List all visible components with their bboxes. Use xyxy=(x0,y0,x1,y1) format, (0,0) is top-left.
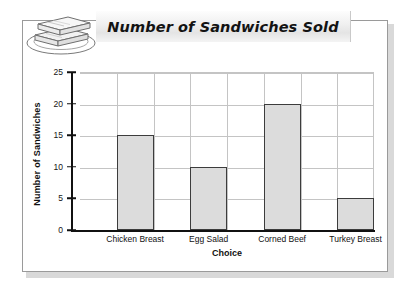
vertical-gridline xyxy=(154,73,155,230)
chart-title-banner: Number of Sandwiches Sold xyxy=(96,11,351,42)
y-tick-label: 25 xyxy=(54,68,63,77)
sandwich-on-plate-icon xyxy=(18,3,104,59)
horizontal-gridline xyxy=(80,105,373,106)
vertical-gridline xyxy=(227,73,228,230)
worksheet-page: Number of Sandwiches Sold Number of Sand… xyxy=(0,0,408,296)
x-category-label: Egg Salad xyxy=(189,234,228,244)
y-axis-title: Number of Sandwiches xyxy=(28,78,46,230)
bar xyxy=(337,198,374,230)
y-tick-label: 5 xyxy=(58,194,63,203)
bar-chart: Number of Sandwiches 0510152025 Chicken … xyxy=(24,66,382,256)
chart-title: Number of Sandwiches Sold xyxy=(107,19,338,35)
y-tickmark xyxy=(67,198,76,200)
y-axis-tick-labels: 0510152025 xyxy=(46,72,68,236)
bar xyxy=(264,104,301,230)
y-axis-title-text: Number of Sandwiches xyxy=(32,102,42,206)
y-axis-line xyxy=(71,72,73,232)
y-tickmark xyxy=(67,71,76,73)
y-tickmark xyxy=(67,134,76,136)
y-tickmark xyxy=(67,166,76,168)
y-tick-label: 10 xyxy=(54,163,63,172)
y-tick-label: 20 xyxy=(54,99,63,108)
plot-area xyxy=(80,72,374,230)
y-tick-label: 0 xyxy=(58,226,63,235)
x-axis-title: Choice xyxy=(80,248,374,258)
x-category-label: Chicken Breast xyxy=(106,234,164,244)
x-axis-category-labels: Chicken BreastEgg SaladCorned BeefTurkey… xyxy=(80,234,374,248)
x-category-label: Turkey Breast xyxy=(329,234,382,244)
bar xyxy=(190,167,227,230)
x-axis-line xyxy=(71,230,375,232)
y-tickmark xyxy=(67,103,76,105)
x-category-label: Corned Beef xyxy=(258,234,306,244)
horizontal-gridline xyxy=(80,73,373,74)
y-tick-label: 15 xyxy=(54,131,63,140)
bar xyxy=(117,135,154,230)
vertical-gridline xyxy=(301,73,302,230)
